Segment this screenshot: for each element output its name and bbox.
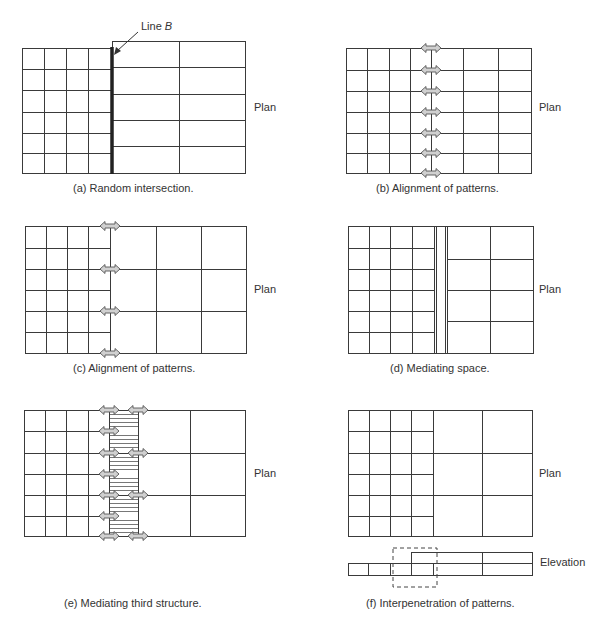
panel-c-caption: (c) Alignment of patterns.: [73, 362, 195, 374]
large-grid: [112, 41, 245, 173]
panel-d-view-label: Plan: [539, 283, 561, 295]
panel-c-diagram: [25, 222, 246, 358]
panel-e-caption: (e) Mediating third structure.: [64, 597, 202, 609]
panel-a-diagram: [22, 32, 245, 174]
panel-f-view-label: Plan: [539, 467, 561, 479]
panel-c-view-label: Plan: [254, 283, 276, 295]
panel-f-elevation-label: Elevation: [540, 556, 585, 568]
panel-a-caption: (a) Random intersection.: [73, 182, 193, 194]
figure-canvas: [0, 0, 601, 625]
panel-b-view-label: Plan: [539, 101, 561, 113]
panel-e-view-label: Plan: [254, 467, 276, 479]
panel-b-diagram: [346, 44, 531, 178]
panel-f-diagram: [348, 410, 532, 587]
plan-grid: [348, 410, 532, 536]
panel-a-view-label: Plan: [254, 101, 276, 113]
line-b-label: Line B: [141, 20, 172, 32]
panel-d-diagram: [348, 226, 533, 353]
panel-e-diagram: [24, 406, 245, 541]
panel-b-caption: (b) Alignment of patterns.: [376, 182, 499, 194]
panel-f-caption: (f) Interpenetration of patterns.: [366, 597, 515, 609]
interpenetration-box: [393, 548, 437, 587]
panel-d-caption: (d) Mediating space.: [390, 362, 490, 374]
small-grid: [22, 48, 112, 173]
elevation-strip: [348, 552, 532, 575]
